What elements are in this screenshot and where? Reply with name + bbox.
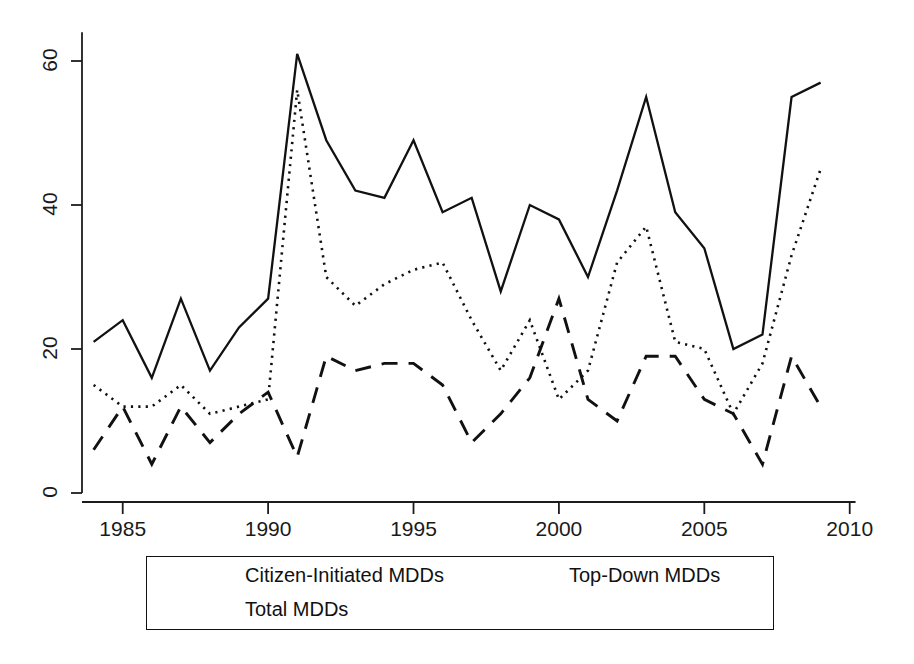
chart-series-line: [94, 299, 821, 465]
x-axis-tick-label: 2005: [669, 517, 739, 541]
x-axis-tick-label: 1985: [88, 517, 158, 541]
y-axis-tick-label: 20: [38, 326, 62, 370]
chart-legend: Citizen-Initiated MDDsTop-Down MDDsTotal…: [146, 556, 774, 630]
legend-label: Total MDDs: [245, 598, 348, 621]
legend-label: Top-Down MDDs: [569, 564, 720, 587]
chart-series-line: [94, 54, 821, 378]
x-axis-tick-label: 1990: [233, 517, 303, 541]
x-axis-tick-label: 1995: [379, 517, 449, 541]
chart-axes: [71, 32, 856, 514]
y-axis-tick-label: 60: [38, 38, 62, 82]
y-axis-tick-label: 40: [38, 182, 62, 226]
x-axis-tick-label: 2000: [524, 517, 594, 541]
chart-figure: 0204060 198519901995200020052010 Citizen…: [0, 0, 914, 664]
chart-series-group: [94, 54, 821, 464]
legend-label: Citizen-Initiated MDDs: [245, 564, 444, 587]
y-axis-tick-label: 0: [38, 470, 62, 514]
chart-series-line: [94, 90, 821, 414]
x-axis-tick-label: 2010: [815, 517, 885, 541]
